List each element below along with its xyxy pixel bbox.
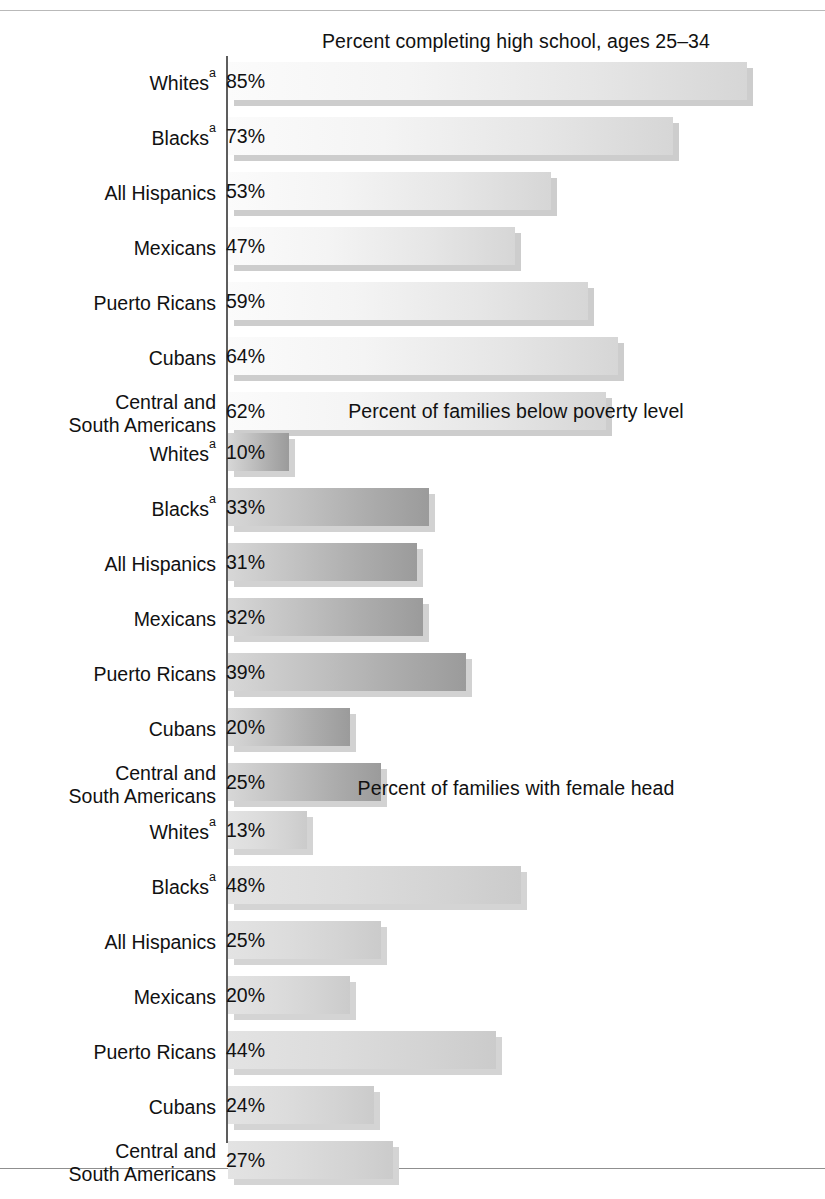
bar-value-label: 47% [226,227,513,265]
footnote-marker: a [209,66,216,80]
category-label: Puerto Ricans [0,1025,216,1080]
category-label: Cubans [0,1080,216,1135]
category-label: Whitesa [0,56,216,111]
chart-row: Puerto Ricans39% [0,647,825,702]
category-label-line: Central and [115,1140,216,1163]
bar-value-label: 39% [226,653,464,691]
bar-group: 39% [228,653,472,697]
category-label: Mexicans [0,970,216,1025]
category-label: All Hispanics [0,166,216,221]
bar-group: 25% [228,921,387,965]
bar-value-label: 24% [226,1086,372,1124]
category-label-line: Whitesa [149,443,216,466]
chart-row: All Hispanics25% [0,915,825,970]
bar-group: 47% [228,227,521,271]
bar-value-label: 20% [226,708,348,746]
chart-row: Cubans64% [0,331,825,386]
bar-group: 73% [228,117,679,161]
bar-value-label: 13% [226,811,305,849]
bar-group: 64% [228,337,624,381]
category-label: Blacksa [0,111,216,166]
category-label: Mexicans [0,221,216,276]
category-label-line: All Hispanics [104,553,216,576]
category-label: Cubans [0,702,216,757]
bar-group: 59% [228,282,594,326]
figure-container: Percent completing high school, ages 25–… [0,0,825,1199]
footnote-marker: a [209,492,216,506]
bar-value-label: 31% [226,543,415,581]
category-label-line: Whitesa [149,72,216,95]
chart-row: Whitesa13% [0,805,825,860]
category-label: Puerto Ricans [0,276,216,331]
category-label-line: Central and [115,762,216,785]
chart-row: Cubans20% [0,702,825,757]
category-label-line: Central and [115,391,216,414]
category-label-line: Mexicans [134,986,216,1009]
category-label-line: Cubans [149,718,216,741]
footnote-marker: a [209,870,216,884]
footnote-marker: a [209,437,216,451]
bar-group: 24% [228,1086,380,1130]
category-label-line: Blacksa [152,498,216,521]
panel-title-high-school: Percent completing high school, ages 25–… [226,30,806,53]
category-label: All Hispanics [0,537,216,592]
category-label: Mexicans [0,592,216,647]
chart-row: Central andSouth Americans27% [0,1135,825,1190]
bar-value-label: 27% [226,1141,391,1179]
category-label-line: All Hispanics [104,931,216,954]
chart-row: Cubans24% [0,1080,825,1135]
panel-title-poverty: Percent of families below poverty level [226,400,806,423]
bar-value-label: 33% [226,488,427,526]
category-label-line: Puerto Ricans [94,1041,216,1064]
category-label: Central andSouth Americans [0,757,216,812]
bar-value-label: 64% [226,337,616,375]
chart-row: Blacksa48% [0,860,825,915]
chart-row: Mexicans20% [0,970,825,1025]
chart-row: Puerto Ricans59% [0,276,825,331]
chart-row: Puerto Ricans44% [0,1025,825,1080]
category-label: Blacksa [0,482,216,537]
category-label: Central andSouth Americans [0,1135,216,1190]
chart-row: Mexicans32% [0,592,825,647]
category-label-line: Puerto Ricans [94,292,216,315]
bar-group: 44% [228,1031,502,1075]
category-label-line: Whitesa [149,821,216,844]
chart-row: Whitesa85% [0,56,825,111]
bar-value-label: 53% [226,172,549,210]
bar-group: 20% [228,708,356,752]
bar-group: 48% [228,866,527,910]
category-label-line: South Americans [69,1163,216,1186]
bar-value-label: 25% [226,921,379,959]
category-label: Whitesa [0,805,216,860]
bar-group: 53% [228,172,557,216]
category-label-line: All Hispanics [104,182,216,205]
figure-top-rule [0,10,825,11]
bar-value-label: 73% [226,117,671,155]
category-label-line: Mexicans [134,237,216,260]
bar-group: 33% [228,488,435,532]
category-label: Puerto Ricans [0,647,216,702]
bar-group: 10% [228,433,295,477]
footnote-marker: a [209,121,216,135]
category-label-line: Mexicans [134,608,216,631]
category-label-line: Blacksa [152,876,216,899]
category-label-line: Puerto Ricans [94,663,216,686]
bar-value-label: 44% [226,1031,494,1069]
category-label: All Hispanics [0,915,216,970]
category-label: Cubans [0,331,216,386]
bar-group: 13% [228,811,313,855]
panel-title-female-head: Percent of families with female head [226,777,806,800]
chart-row: Whitesa10% [0,427,825,482]
bar-value-label: 32% [226,598,421,636]
chart-row: Mexicans47% [0,221,825,276]
category-label-line: Cubans [149,1096,216,1119]
chart-row: Blacksa73% [0,111,825,166]
footnote-marker: a [209,815,216,829]
bar-group: 27% [228,1141,399,1185]
category-label: Whitesa [0,427,216,482]
bar-group: 20% [228,976,356,1020]
chart-row: All Hispanics31% [0,537,825,592]
category-label-line: Blacksa [152,127,216,150]
bar-value-label: 20% [226,976,348,1014]
bar-value-label: 85% [226,62,745,100]
